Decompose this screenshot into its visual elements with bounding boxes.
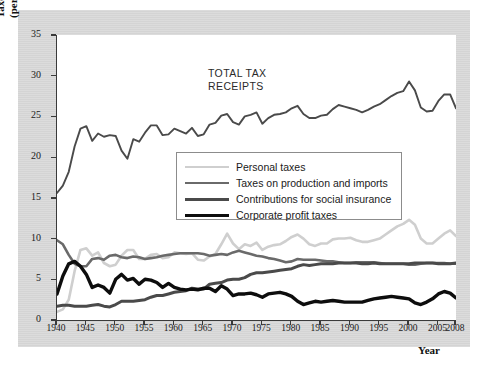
y-axis-title: Taxes (percent of GDP) (0, 0, 20, 18)
legend-swatch-line (185, 214, 229, 217)
legend-swatch-line (185, 166, 229, 168)
y-axis-title-line1: Taxes (0, 0, 7, 18)
y-tick-mark (51, 34, 56, 35)
legend-item-label: Corporate profit taxes (236, 209, 337, 221)
series-line (57, 263, 456, 307)
chart-figure: Taxes (percent of GDP) Year 051015202530… (0, 0, 499, 381)
legend-swatch-line (185, 182, 229, 184)
annotation-line-2: RECEIPTS (208, 80, 266, 93)
y-tick-label: 5 (15, 272, 41, 283)
legend-item: Contributions for social insurance (185, 191, 401, 207)
legend-box: Personal taxesTaxes on production and im… (176, 152, 402, 220)
y-tick-mark (51, 197, 56, 198)
legend-item: Taxes on production and imports (185, 175, 401, 191)
y-tick-mark (51, 238, 56, 239)
legend-item-label: Contributions for social insurance (236, 193, 391, 205)
y-tick-label: 25 (15, 109, 41, 120)
y-tick-mark (51, 75, 56, 76)
y-tick-label: 10 (15, 232, 41, 243)
y-axis-title-line2: (percent of GDP) (7, 0, 20, 18)
legend-swatch-line (185, 198, 229, 201)
y-tick-label: 0 (15, 313, 41, 324)
x-axis-title: Year (418, 344, 440, 356)
y-tick-mark (51, 157, 56, 158)
y-tick-label: 30 (15, 69, 41, 80)
y-tick-label: 35 (15, 28, 41, 39)
y-tick-mark (51, 116, 56, 117)
y-tick-label: 15 (15, 191, 41, 202)
legend-item: Corporate profit taxes (185, 207, 401, 223)
y-tick-mark (51, 279, 56, 280)
x-tick-label: 2008 (438, 323, 472, 333)
legend-item: Personal taxes (185, 159, 401, 175)
total-tax-annotation: TOTAL TAX RECEIPTS (208, 67, 266, 93)
series-line (57, 261, 456, 304)
annotation-line-1: TOTAL TAX (208, 67, 266, 80)
y-tick-label: 20 (15, 150, 41, 161)
legend-item-label: Personal taxes (236, 161, 305, 173)
legend-item-label: Taxes on production and imports (236, 177, 388, 189)
